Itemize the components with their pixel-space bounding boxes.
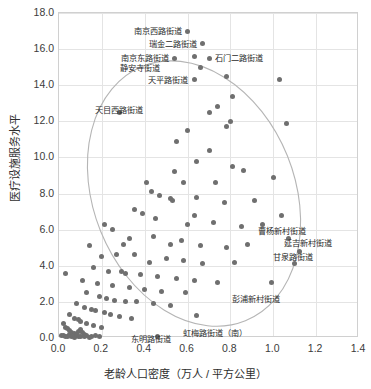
data-point xyxy=(222,200,227,205)
point-label: 南京东路街道 xyxy=(121,54,169,63)
y-tick-label: 10.0 xyxy=(0,151,54,161)
data-point xyxy=(108,312,113,317)
y-tick-label: 0.0 xyxy=(0,332,54,342)
point-label: 静安寺街道 xyxy=(120,64,160,73)
cluster-ellipse xyxy=(59,13,359,338)
point-label: 天目西路街道 xyxy=(95,106,143,115)
data-point xyxy=(123,271,128,276)
data-point xyxy=(198,65,203,70)
data-point xyxy=(142,287,147,292)
data-point xyxy=(224,124,229,129)
x-tick-label: 0.4 xyxy=(124,343,164,353)
data-point xyxy=(194,195,199,200)
point-label: 石门二路街道 xyxy=(215,54,263,63)
data-point xyxy=(80,278,85,283)
x-tick-label: 1.2 xyxy=(295,343,335,353)
data-point xyxy=(117,314,122,319)
data-point xyxy=(192,213,197,218)
data-point xyxy=(159,289,164,294)
plot-area: 南京西路街道瑞金二路街道南京东路街道石门二路街道静安寺街道天平路街道天目西路街道… xyxy=(58,12,358,337)
data-point xyxy=(91,265,96,270)
data-point xyxy=(82,305,87,310)
point-label: 东明路街道 xyxy=(131,335,171,344)
data-point xyxy=(74,301,79,306)
data-point xyxy=(185,29,190,34)
x-tick-label: 0.0 xyxy=(38,343,78,353)
y-tick-label: 6.0 xyxy=(0,224,54,234)
data-point xyxy=(181,180,186,185)
data-point xyxy=(181,258,186,263)
data-point xyxy=(185,222,190,227)
point-label: 瑞金二路街道 xyxy=(149,39,197,48)
data-point xyxy=(97,334,102,339)
data-point xyxy=(271,175,276,180)
data-point xyxy=(151,301,156,306)
data-point xyxy=(121,242,126,247)
data-point xyxy=(192,77,197,82)
data-point xyxy=(194,159,199,164)
data-point xyxy=(215,280,220,285)
data-point xyxy=(269,280,274,285)
y-tick-label: 18.0 xyxy=(0,7,54,17)
data-point xyxy=(102,222,107,227)
data-point xyxy=(245,242,250,247)
data-point xyxy=(241,168,246,173)
data-point xyxy=(194,313,199,318)
data-point xyxy=(284,121,289,126)
data-point xyxy=(228,119,233,124)
data-point xyxy=(104,296,109,301)
y-tick-label: 4.0 xyxy=(0,260,54,270)
y-tick-label: 8.0 xyxy=(0,188,54,198)
data-point xyxy=(140,211,145,216)
data-point xyxy=(91,323,96,328)
data-point xyxy=(112,298,117,303)
data-point xyxy=(164,256,169,261)
data-point xyxy=(168,242,173,247)
data-point xyxy=(224,245,229,250)
data-point xyxy=(239,224,244,229)
data-point xyxy=(147,260,152,265)
data-point xyxy=(211,220,216,225)
point-label: 南京西路街道 xyxy=(134,27,182,36)
data-point xyxy=(207,148,212,153)
data-point xyxy=(63,271,68,276)
data-point xyxy=(102,310,107,315)
x-tick-label: 0.2 xyxy=(81,343,121,353)
data-point xyxy=(179,238,184,243)
x-tick-label: 1.4 xyxy=(338,343,371,353)
point-label: 甘泉路街道 xyxy=(273,252,313,261)
data-point xyxy=(87,243,92,248)
data-point xyxy=(230,94,235,99)
data-point xyxy=(185,128,190,133)
data-point xyxy=(207,56,212,61)
point-label: 彭浦新村街道 xyxy=(232,295,280,304)
scatter-chart: 医疗设施服务水平 老龄人口密度（万人 / 平方公里） 0.02.04.06.08… xyxy=(0,0,371,389)
x-tick-label: 0.8 xyxy=(209,343,249,353)
x-axis-title: 老龄人口密度（万人 / 平方公里） xyxy=(0,365,371,381)
y-tick-label: 16.0 xyxy=(0,43,54,53)
y-tick-label: 12.0 xyxy=(0,115,54,125)
point-label: 虹梅路街道（南） xyxy=(183,329,247,338)
point-label: 延吉新村街道 xyxy=(284,239,332,248)
data-point xyxy=(252,198,257,203)
data-point xyxy=(207,110,212,115)
data-point xyxy=(230,164,235,169)
data-point xyxy=(106,269,111,274)
data-point xyxy=(172,56,177,61)
y-tick-label: 2.0 xyxy=(0,296,54,306)
point-label: 天平路街道 xyxy=(148,75,188,84)
data-point xyxy=(132,207,137,212)
data-point xyxy=(232,260,237,265)
x-tick-label: 1.0 xyxy=(252,343,292,353)
data-point xyxy=(192,278,197,283)
point-label: 曹杨新村街道 xyxy=(258,226,306,235)
data-point xyxy=(168,303,173,308)
data-point xyxy=(149,189,154,194)
x-tick-label: 0.6 xyxy=(167,343,207,353)
y-tick-label: 14.0 xyxy=(0,79,54,89)
data-point xyxy=(192,54,197,59)
data-point xyxy=(224,74,229,79)
